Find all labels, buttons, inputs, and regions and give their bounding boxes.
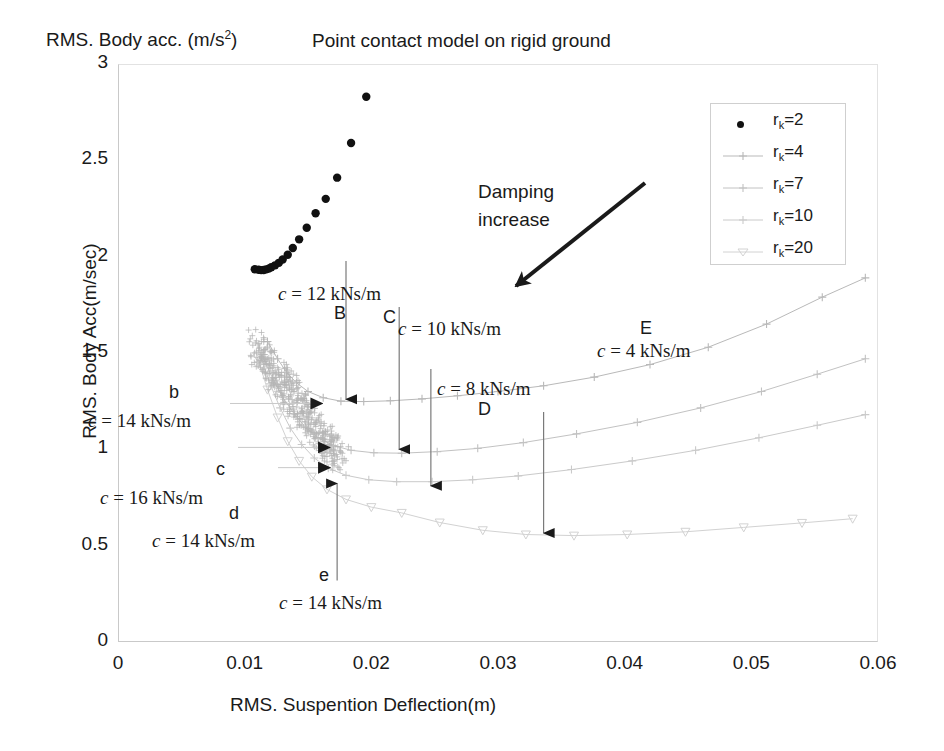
y-axis-unit-label: RMS. Body acc. (m/s2): [46, 28, 237, 51]
annotation-letter-d: d: [229, 503, 239, 524]
legend-marker-icon: [721, 149, 765, 163]
series-r_k=2: [251, 93, 371, 275]
legend-label: rk=4: [773, 142, 804, 163]
y-tick-label: 3: [48, 51, 108, 73]
legend-marker-icon: [721, 245, 765, 259]
annotation-letter-D: D: [478, 399, 491, 420]
legend-line-icon: [721, 149, 765, 163]
y-tick-label: 2: [48, 244, 108, 266]
y-tick-label: 0: [48, 629, 108, 651]
annotation-damping-B: c = 12 kNs/m: [278, 283, 381, 305]
legend-dot-icon: [737, 121, 744, 128]
annotation-letter-C: C: [383, 307, 396, 328]
x-axis-title: RMS. Suspention Deflection(m): [230, 694, 496, 716]
y-tick-label: 2.5: [48, 147, 108, 169]
legend-label: rk=7: [773, 174, 804, 195]
annotation-letter-E: E: [640, 318, 652, 339]
x-tick-label: 0: [88, 652, 148, 674]
x-tick-label: 0.03: [468, 652, 528, 674]
legend-line-icon: [721, 181, 765, 195]
chart-title: Point contact model on rigid ground: [312, 30, 611, 52]
legend-label: rk=10: [773, 206, 813, 227]
legend-item-r_k=2[interactable]: rk=2: [711, 108, 845, 140]
damping-increase-note: Damping increase: [478, 178, 554, 234]
damping-note-line2: increase: [478, 206, 554, 234]
annotation-letter-b: b: [169, 382, 179, 403]
annotation-damping-d: c = 14 kNs/m: [152, 530, 255, 552]
annotation-damping-D: c = 8 kNs/m: [437, 378, 531, 400]
x-tick-label: 0.01: [215, 652, 275, 674]
y-tick-label: 1: [48, 436, 108, 458]
legend-item-r_k=4[interactable]: rk=4: [711, 140, 845, 172]
y-axis-unit-close: ): [231, 29, 237, 50]
legend-item-r_k=20[interactable]: rk=20: [711, 236, 845, 268]
x-tick-label: 0.06: [848, 652, 908, 674]
y-axis-unit-text: RMS. Body acc. (m/s: [46, 29, 224, 50]
legend-marker-icon: [721, 213, 765, 227]
y-tick-label: 0.5: [48, 533, 108, 555]
legend-line-icon: [721, 245, 765, 259]
legend-label: rk=2: [773, 110, 804, 131]
legend-item-r_k=7[interactable]: rk=7: [711, 172, 845, 204]
annotation-letter-c: c: [216, 459, 225, 480]
legend-marker-icon: [721, 181, 765, 195]
annotation-letter-B: B: [334, 303, 346, 324]
annotation-damping-e: c = 14 kNs/m: [279, 592, 382, 614]
annotation-damping-E: c = 4 kNs/m: [597, 340, 691, 362]
damping-note-line1: Damping: [478, 178, 554, 206]
legend-marker-icon: [721, 117, 765, 131]
x-tick-label: 0.02: [341, 652, 401, 674]
annotation-damping-b: c = 14 kNs/m: [88, 410, 191, 432]
x-tick-label: 0.05: [721, 652, 781, 674]
legend[interactable]: rk=2rk=4rk=7rk=10rk=20: [710, 103, 846, 265]
legend-line-icon: [721, 213, 765, 227]
annotation-damping-C: c = 10 kNs/m: [398, 318, 501, 340]
chart-figure: RMS. Body acc. (m/s2) Point contact mode…: [0, 0, 944, 751]
legend-label: rk=20: [773, 238, 813, 259]
annotation-letter-e: e: [319, 565, 329, 586]
series-r_k=7: [257, 349, 869, 457]
series-r_k=10: [256, 351, 869, 486]
x-tick-label: 0.04: [595, 652, 655, 674]
legend-item-r_k=10[interactable]: rk=10: [711, 204, 845, 236]
annotation-damping-c: c = 16 kNs/m: [100, 487, 203, 509]
y-tick-label: 1.5: [48, 340, 108, 362]
